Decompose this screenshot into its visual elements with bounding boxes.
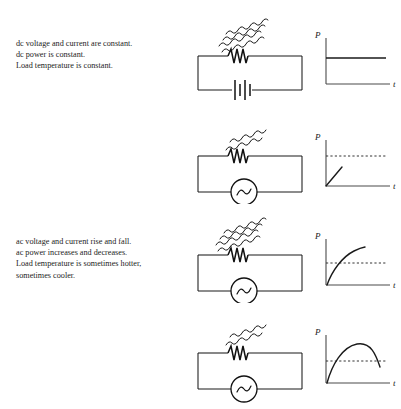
- p-axis-label: P: [314, 327, 321, 337]
- dc-caption-line-2: dc power is constant.: [16, 49, 132, 60]
- p-axis-label: P: [314, 231, 321, 241]
- ac-caption-line-1: ac voltage and current rise and fall.: [16, 236, 141, 247]
- row-ac-high: P t: [190, 207, 400, 303]
- circuit-loop-ac: [198, 156, 302, 192]
- dc-caption-line-1: dc voltage and current are constant.: [16, 38, 132, 49]
- dc-caption-line-3: Load temperature is constant.: [16, 60, 132, 71]
- power-trace-arch: [327, 344, 380, 383]
- p-axis-label: P: [314, 30, 321, 40]
- resistor-load-icon: [228, 346, 248, 360]
- physics-figure: dc voltage and current are constant. dc …: [0, 0, 401, 409]
- radiation-waves-icon: [216, 218, 266, 251]
- t-axis-label: t: [393, 79, 396, 89]
- row-ac-low: P t: [190, 108, 400, 204]
- ac-caption-line-2: ac power increases and decreases.: [16, 247, 141, 258]
- power-trace-saturating: [327, 247, 365, 285]
- power-vs-time-ac-curve: P t: [314, 231, 396, 290]
- ac-voltage-source-icon: [231, 179, 257, 204]
- power-trace-ramp: [326, 167, 342, 186]
- radiation-waves-icon: [226, 325, 266, 345]
- circuit-loop-ac: [198, 255, 302, 291]
- ac-caption: ac voltage and current rise and fall. ac…: [16, 236, 141, 281]
- ac-voltage-source-icon: [231, 376, 257, 402]
- dc-caption: dc voltage and current are constant. dc …: [16, 38, 132, 72]
- resistor-load-icon: [228, 49, 248, 63]
- resistor-load-icon: [228, 149, 248, 163]
- ac-caption-line-3: Load temperature is sometimes hotter,: [16, 258, 141, 269]
- t-axis-label: t: [393, 280, 396, 290]
- dc-battery-source-icon: [235, 80, 250, 100]
- p-axis-label: P: [314, 132, 321, 142]
- radiation-waves-icon: [219, 19, 268, 52]
- power-vs-time-ac-arch: P t: [314, 327, 396, 388]
- resistor-load-icon: [228, 248, 248, 262]
- row-ac-peak: P t: [190, 303, 400, 403]
- circuit-loop-ac: [198, 353, 302, 389]
- row-dc: P t: [190, 8, 400, 100]
- t-axis-label: t: [393, 181, 396, 191]
- ac-voltage-source-icon: [231, 278, 257, 303]
- ac-caption-line-4: sometimes cooler.: [16, 270, 141, 281]
- radiation-waves-icon: [226, 130, 266, 150]
- power-vs-time-dc: P t: [314, 30, 396, 89]
- t-axis-label: t: [393, 378, 396, 388]
- power-vs-time-ac-rising: P t: [314, 132, 396, 191]
